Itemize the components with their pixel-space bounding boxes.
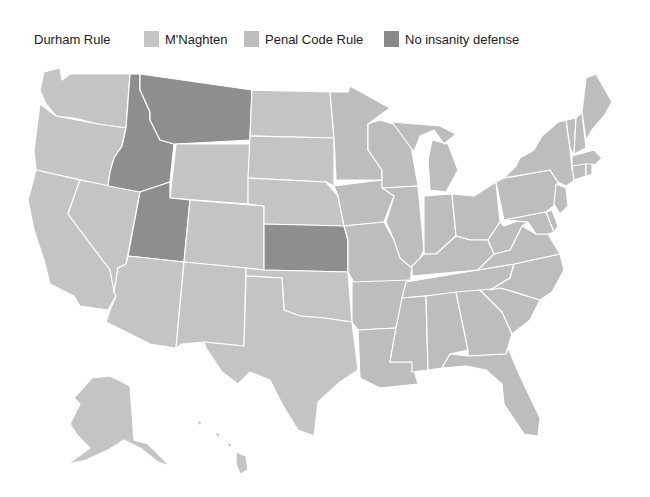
state-az: [106, 256, 184, 348]
us-map: [0, 0, 650, 497]
state-me: [582, 74, 612, 140]
state-ks: [264, 224, 348, 272]
states-layer: [28, 68, 612, 474]
state-oh: [452, 182, 500, 240]
state-ri: [586, 164, 592, 176]
state-co: [184, 200, 264, 270]
state-hi: [196, 420, 248, 474]
state-nm: [176, 262, 246, 348]
state-nj: [554, 184, 568, 214]
state-ct: [572, 164, 586, 180]
state-nd: [250, 90, 334, 138]
state-wy: [170, 144, 250, 204]
state-ak: [68, 376, 170, 466]
state-mt: [140, 74, 252, 144]
state-fl: [442, 348, 540, 436]
